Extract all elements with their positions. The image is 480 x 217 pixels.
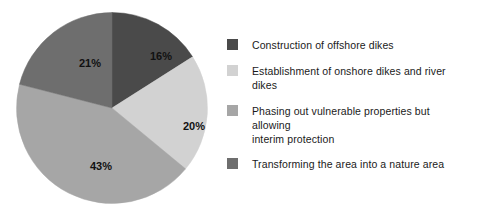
legend-item[interactable]: Transforming the area into a nature area <box>227 157 470 171</box>
pie-slice-group <box>17 13 208 204</box>
legend-item[interactable]: Phasing out vulnerable properties but al… <box>227 104 470 146</box>
pie-chart: 16%20%43%21% <box>16 12 208 204</box>
pie-slice-value-label: 16% <box>150 50 172 62</box>
legend-item[interactable]: Construction of offshore dikes <box>227 38 470 52</box>
pie-slice-value-label: 21% <box>79 57 101 69</box>
legend-swatch-phasing-out-properties <box>227 105 238 116</box>
legend-swatch-nature-area <box>227 158 238 169</box>
pie-chart-svg: 16%20%43%21% <box>16 12 208 204</box>
pie-chart-figure: 16%20%43%21% Construction of offshore di… <box>0 0 480 217</box>
legend-swatch-offshore-dikes <box>227 39 238 50</box>
legend-item-label: Phasing out vulnerable properties but al… <box>252 104 470 146</box>
pie-slice-value-label: 43% <box>90 160 112 172</box>
legend-item-label: Transforming the area into a nature area <box>252 157 444 171</box>
legend-swatch-onshore-river-dikes <box>227 65 238 76</box>
legend-item-label: Establishment of onshore dikes and river… <box>252 64 470 92</box>
legend-item[interactable]: Establishment of onshore dikes and river… <box>227 64 470 92</box>
legend-item-label: Construction of offshore dikes <box>252 38 394 52</box>
pie-slice-value-label: 20% <box>183 120 205 132</box>
legend: Construction of offshore dikesEstablishm… <box>227 38 470 183</box>
